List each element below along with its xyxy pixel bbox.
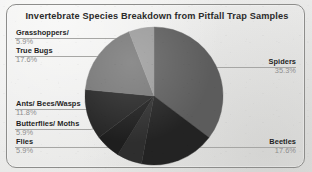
slice-label-butterflies-name: Butterflies/ Moths	[16, 119, 79, 128]
slice-label-flies-name: Flies	[16, 137, 33, 146]
page-title: Invertebrate Species Breakdown from Pitf…	[18, 11, 296, 21]
slice-label-ants-pct: 11.8%	[16, 108, 81, 117]
chart-page: Invertebrate Species Breakdown from Pitf…	[0, 0, 312, 172]
pie-chart	[84, 26, 224, 166]
slice-label-grasshoppers: Grasshoppers/ 5.9%	[16, 28, 69, 46]
slice-label-true-bugs-name: True Bugs	[16, 46, 53, 55]
slice-label-spiders-pct: 35.3%	[269, 66, 296, 75]
slice-label-flies-pct: 5.9%	[16, 146, 33, 155]
slice-label-spiders-name: Spiders	[269, 57, 296, 66]
slice-label-butterflies: Butterflies/ Moths 5.9%	[16, 119, 79, 137]
pie-svg	[84, 26, 224, 166]
slice-label-ants: Ants/ Bees/Wasps 11.8%	[16, 99, 81, 117]
slice-label-butterflies-pct: 5.9%	[16, 128, 79, 137]
slice-label-true-bugs-pct: 17.6%	[16, 55, 53, 64]
slice-label-true-bugs: True Bugs 17.6%	[16, 46, 53, 64]
slice-label-flies: Flies 5.9%	[16, 137, 33, 155]
slice-label-spiders: Spiders 35.3%	[269, 57, 296, 75]
slice-label-beetles-name: Beetles	[269, 137, 296, 146]
slice-label-grasshoppers-name: Grasshoppers/	[16, 28, 69, 37]
slice-label-beetles-pct: 17.6%	[269, 146, 296, 155]
slice-label-beetles: Beetles 17.6%	[269, 137, 296, 155]
slice-label-grasshoppers-pct: 5.9%	[16, 37, 69, 46]
slice-label-ants-name: Ants/ Bees/Wasps	[16, 99, 81, 108]
